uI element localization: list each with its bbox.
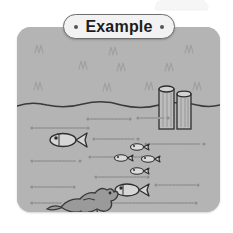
ocean-scene-illustration xyxy=(17,27,220,212)
title-badge: Example xyxy=(63,14,175,39)
scene-panel xyxy=(17,27,220,212)
illustration-root: Example xyxy=(0,0,233,233)
badge-left-dot-icon xyxy=(74,25,78,29)
cloud-icon xyxy=(150,0,212,12)
badge-right-dot-icon xyxy=(160,25,164,29)
page-title: Example xyxy=(85,19,152,35)
